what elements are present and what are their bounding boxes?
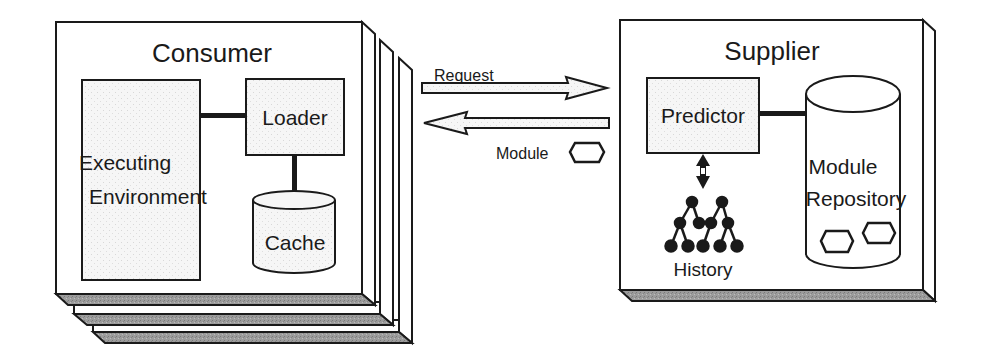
- hexagon-module-icon: [570, 143, 604, 162]
- consumer-stack: Consumer Executing Environment Loader Ca…: [56, 22, 412, 343]
- consumer-title: Consumer: [152, 38, 272, 68]
- request-label: Request: [434, 67, 494, 84]
- history-label: History: [673, 259, 733, 280]
- stored-module-icon-1: [821, 231, 853, 252]
- predictor-repository-connector: [759, 111, 805, 116]
- supplier-title: Supplier: [724, 36, 820, 66]
- loader-label: Loader: [262, 106, 327, 129]
- module-return-arrow: [424, 112, 609, 134]
- repository-label-line1: Module: [809, 155, 878, 178]
- loader-cache-connector: [292, 155, 297, 195]
- executing-environment-label-line2: Environment: [89, 185, 207, 208]
- system-diagram: Consumer Executing Environment Loader Ca…: [0, 0, 985, 361]
- stored-module-icon-2: [863, 223, 895, 243]
- cache-label: Cache: [265, 231, 326, 254]
- predictor-label: Predictor: [661, 104, 745, 127]
- executing-environment-box: [82, 80, 200, 280]
- module-label: Module: [496, 145, 549, 162]
- env-loader-connector: [200, 113, 246, 118]
- repository-label-line2: Repository: [806, 187, 907, 210]
- executing-environment-label-line1: Executing: [79, 151, 171, 174]
